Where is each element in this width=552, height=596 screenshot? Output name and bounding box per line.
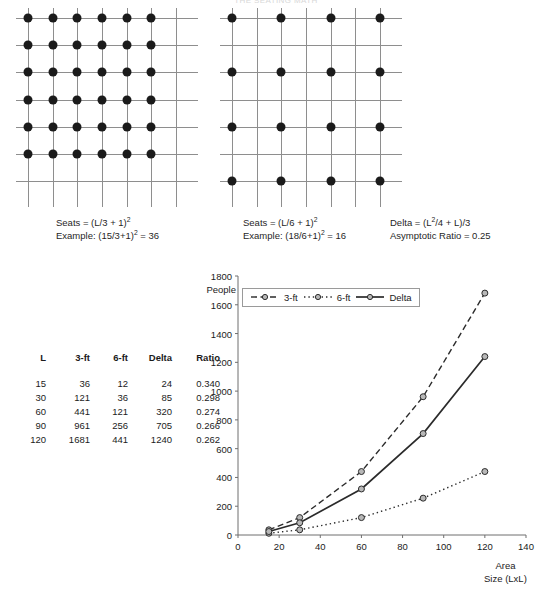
seat-dot [24, 150, 33, 159]
caption-middle: Seats = (L/6 + 1)2 Example: (18/6+1)2 = … [243, 216, 346, 242]
table-cell: 441 [90, 432, 128, 446]
x-tick-label: 80 [386, 541, 420, 552]
seat-dot [376, 177, 385, 186]
seat-dot [327, 177, 336, 186]
data-point-3-ft [420, 394, 426, 400]
y-tick-label: 0 [196, 530, 232, 541]
seat-dot [24, 96, 33, 105]
table-cell: 961 [46, 418, 90, 432]
y-tick-label: 1200 [196, 357, 232, 368]
table: L3-ft6-ftDeltaRatio 153612240.3403012136… [16, 352, 220, 446]
table-cell: 60 [16, 404, 46, 418]
seat-dot [123, 41, 132, 50]
x-tick-label: 120 [468, 541, 502, 552]
seat-dot [123, 123, 132, 132]
grid-line-vertical [355, 8, 356, 207]
table-header-6-ft: 6-ft [90, 352, 128, 376]
seat-dot [123, 96, 132, 105]
page-top-title: THE SEATING MATH [0, 0, 552, 5]
seat-dot [147, 96, 156, 105]
grid-line-horizontal [16, 127, 198, 128]
grid-line-vertical [151, 8, 152, 207]
table-cell: 1240 [128, 432, 172, 446]
x-tick-label: 100 [427, 541, 461, 552]
y-tick-label: 600 [196, 443, 232, 454]
y-tick-label: 1800 [196, 271, 232, 282]
data-point-3-ft [482, 290, 488, 296]
table-cell: 36 [90, 390, 128, 404]
seat-dot [49, 96, 58, 105]
seat-dot [24, 41, 33, 50]
table-cell: 12 [90, 376, 128, 390]
seat-dot [228, 123, 237, 132]
seat-dot [98, 68, 107, 77]
y-tick-label: 800 [196, 414, 232, 425]
seat-dot [73, 14, 82, 23]
seat-dot [147, 14, 156, 23]
grid-line-vertical [257, 8, 258, 207]
grid-line-horizontal [16, 45, 198, 46]
table-row: 3012136850.298 [16, 390, 220, 404]
x-axis-title-line2: Size (LxL) [470, 572, 540, 585]
seat-dot [73, 41, 82, 50]
table-cell: 120 [16, 432, 46, 446]
plot-area [196, 264, 548, 564]
seat-dot [376, 14, 385, 23]
seat-dot [277, 177, 286, 186]
grid-line-horizontal [16, 72, 198, 73]
grid-line-horizontal [16, 154, 198, 155]
data-point-delta [266, 529, 272, 535]
table-cell: 121 [90, 404, 128, 418]
seat-dot [98, 41, 107, 50]
grid-line-vertical [53, 8, 54, 207]
seat-dot [24, 14, 33, 23]
table-cell: 705 [128, 418, 172, 432]
table-cell: 320 [128, 404, 172, 418]
seat-dot [327, 68, 336, 77]
grid-line-horizontal [220, 100, 402, 101]
series-line-delta [269, 357, 485, 532]
data-point-6-ft [297, 527, 303, 533]
table-header-3-ft: 3-ft [46, 352, 90, 376]
seat-dot [73, 68, 82, 77]
seat-dot [49, 14, 58, 23]
data-point-6-ft [358, 515, 364, 521]
data-point-6-ft [420, 495, 426, 501]
table-header-row: L3-ft6-ftDeltaRatio [16, 352, 220, 376]
x-tick-label: 40 [303, 541, 337, 552]
line-chart: People Area Size (LxL) 3-ft6-ftDelta 020… [196, 264, 548, 564]
seat-dot [228, 14, 237, 23]
seat-dot [147, 123, 156, 132]
seat-dot [123, 68, 132, 77]
table-cell: 24 [128, 376, 172, 390]
x-tick-label: 20 [262, 541, 296, 552]
seating-grid-3ft [28, 18, 193, 200]
caption-right: Delta = (L2/4 + L)/3 Asymptotic Ratio = … [390, 216, 491, 242]
seat-dot [49, 123, 58, 132]
x-tick-label: 60 [344, 541, 378, 552]
table-row: 604411213200.274 [16, 404, 220, 418]
grid-line-horizontal [16, 18, 198, 19]
seat-dot [73, 123, 82, 132]
data-point-delta [482, 354, 488, 360]
table-row: 153612240.340 [16, 376, 220, 390]
table-cell: 121 [46, 390, 90, 404]
seat-dot [147, 150, 156, 159]
caption-left: Seats = (L/3 + 1)2 Example: (15/3+1)2 = … [56, 216, 159, 242]
seat-dot [98, 150, 107, 159]
grid-line-horizontal [220, 154, 402, 155]
table-cell: 441 [46, 404, 90, 418]
table-cell: 85 [128, 390, 172, 404]
caption-middle-formula: Seats = (L/6 + 1)2 [243, 216, 346, 229]
seat-dot [376, 68, 385, 77]
grid-line-vertical [306, 8, 307, 207]
table-row: 909612567050.266 [16, 418, 220, 432]
seat-dot [49, 41, 58, 50]
seat-dot [277, 14, 286, 23]
grid-line-vertical [102, 8, 103, 207]
seat-dot [98, 123, 107, 132]
seat-dot [24, 123, 33, 132]
seat-dot [228, 177, 237, 186]
caption-right-delta: Delta = (L2/4 + L)/3 [390, 216, 491, 229]
seat-dot [228, 68, 237, 77]
